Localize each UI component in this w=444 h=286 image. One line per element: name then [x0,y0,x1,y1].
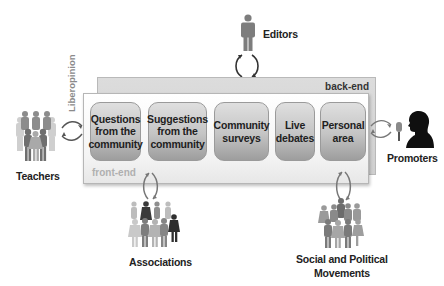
module-live-debates: Live debates [275,102,315,161]
associations-sync-arrows-icon [140,170,162,202]
editor-person-icon [238,14,258,52]
promoters-sync-arrows-icon [368,118,394,140]
module-label: Live debates [276,119,314,144]
module-label: Community surveys [214,119,270,144]
promoters-label: Promoters [387,152,438,164]
module-suggestions-from-community: Suggestions from the community [148,102,207,161]
back-end-label: back-end [325,81,369,92]
module-label: Suggestions from the community [147,113,208,151]
module-questions-from-community: Questions from the community [90,102,141,161]
platform-name-label: Liberopinion [66,60,80,112]
teachers-label: Teachers [16,170,60,182]
editors-label: Editors [263,28,298,40]
module-personal-area: Personal area [320,102,366,161]
movements-label-line1: Social and Political [296,253,388,265]
movements-group-icon [316,198,366,248]
front-end-layer: Questions from the community Suggestions… [83,93,369,184]
associations-label: Associations [129,256,192,268]
module-community-surveys: Community surveys [214,102,269,161]
platform-name-text: Liberopinion [66,54,77,112]
microphone-icon [395,122,403,142]
module-label: Personal area [322,119,365,144]
associations-group-icon [128,200,180,248]
promoter-speaker-icon [404,110,434,148]
teachers-group-icon [14,110,58,162]
front-end-label: front-end [92,167,136,178]
teachers-sync-arrows-icon [58,120,84,142]
module-label: Questions from the community [88,113,142,151]
editors-sync-arrows-icon [232,52,262,80]
movements-label-line2: Movements [314,267,370,279]
